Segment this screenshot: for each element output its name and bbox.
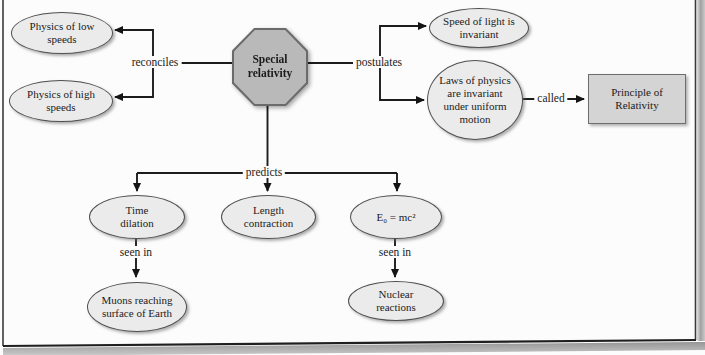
node-mass-energy-label: E₀ = mc²	[377, 211, 416, 224]
node-physics-of-low-speeds-label: Physics of low speeds	[26, 20, 98, 46]
edge-reconciles-to-high-speeds	[115, 63, 153, 97]
node-mass-energy: E₀ = mc²	[350, 195, 442, 239]
node-principle-of-relativity: Principle of Relativity	[588, 74, 686, 124]
node-physics-of-low-speeds: Physics of low speeds	[11, 12, 113, 54]
node-physics-of-high-speeds: Physics of high speeds	[9, 80, 113, 122]
node-speed-of-light-label: Speed of light is invariant	[441, 15, 517, 41]
page-shadow-right	[697, 0, 705, 341]
node-muons: Muons reaching surface of Earth	[87, 282, 187, 332]
node-time-dilation-label: Time dilation	[114, 204, 160, 230]
node-laws-of-physics: Laws of physics are invariant under unif…	[427, 60, 523, 140]
edge-postulates-to-laws	[380, 63, 424, 100]
node-muons-label: Muons reaching surface of Earth	[93, 294, 181, 320]
node-time-dilation: Time dilation	[89, 195, 185, 239]
edge-label-seen-in-left: seen in	[117, 246, 155, 258]
node-length-contraction: Length contraction	[221, 195, 316, 239]
node-speed-of-light: Speed of light is invariant	[429, 8, 529, 48]
node-special-relativity: Special relativity	[232, 28, 308, 106]
node-physics-of-high-speeds-label: Physics of high speeds	[24, 88, 98, 114]
octagon-face: Special relativity	[234, 30, 306, 104]
edge-label-seen-in-right: seen in	[376, 246, 414, 258]
node-laws-of-physics-label: Laws of physics are invariant under unif…	[439, 74, 511, 126]
edge-label-postulates: postulates	[353, 56, 405, 68]
node-length-contraction-label: Length contraction	[236, 204, 302, 230]
node-nuclear-reactions-label: Nuclear reactions	[367, 288, 425, 314]
edge-label-reconciles: reconciles	[129, 56, 182, 68]
edge-label-predicts: predicts	[243, 166, 285, 178]
node-nuclear-reactions: Nuclear reactions	[348, 281, 444, 321]
edge-label-called: called	[534, 92, 567, 104]
concept-map-figure: Special relativity Physics of low speeds…	[0, 0, 705, 355]
node-principle-of-relativity-label: Principle of Relativity	[602, 86, 672, 112]
node-special-relativity-label: Special relativity	[242, 53, 298, 81]
